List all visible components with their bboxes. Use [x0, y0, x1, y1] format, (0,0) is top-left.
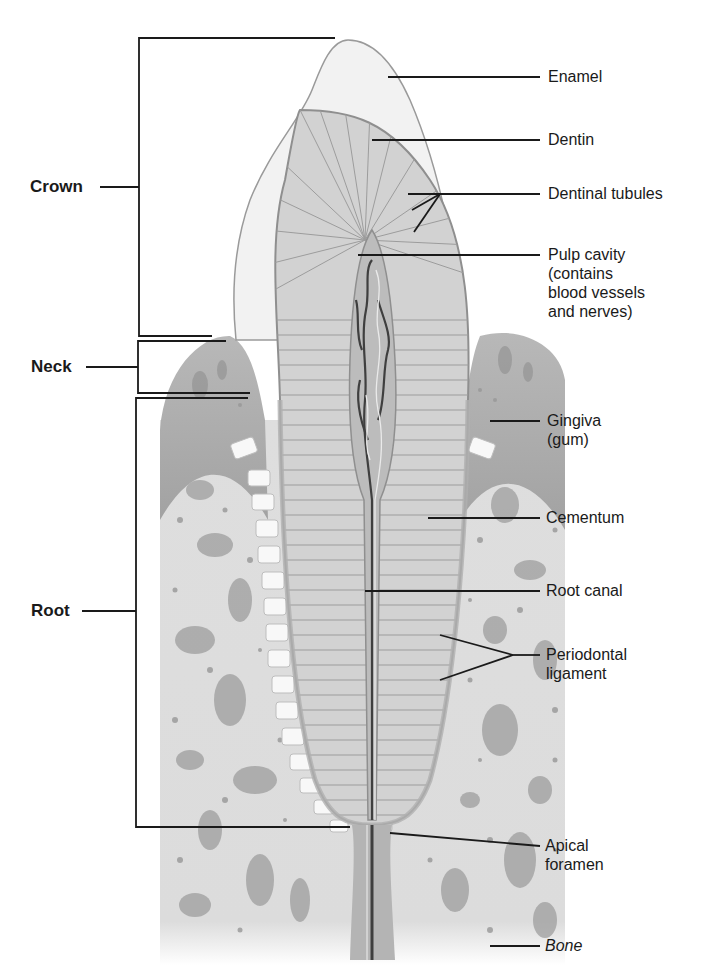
label-root: Root — [31, 601, 70, 620]
label-crown: Crown — [30, 177, 83, 196]
label-neck: Neck — [31, 357, 72, 376]
label-dentin: Dentin — [548, 130, 594, 149]
label-apical-foramen: Apical foramen — [545, 836, 604, 874]
label-periodontal-ligament: Periodontal ligament — [546, 645, 627, 683]
label-gingiva: Gingiva (gum) — [547, 411, 601, 449]
label-enamel: Enamel — [548, 67, 602, 86]
label-dentinal-tubules: Dentinal tubules — [548, 184, 663, 203]
label-root-canal: Root canal — [546, 581, 623, 600]
label-cementum: Cementum — [546, 508, 624, 527]
label-bone: Bone — [545, 936, 582, 955]
apical-canal — [350, 825, 395, 960]
label-pulp-cavity: Pulp cavity (contains blood vessels and … — [548, 245, 645, 321]
tooth-anatomy-diagram — [0, 0, 718, 973]
